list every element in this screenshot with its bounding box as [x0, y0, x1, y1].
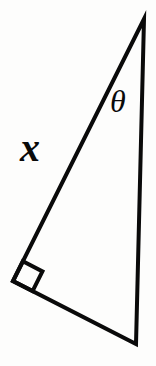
triangle-diagram-svg	[0, 0, 156, 366]
angle-label-theta: θ	[110, 85, 126, 117]
side-length-label-x: x	[20, 128, 40, 168]
right-triangle-outline	[13, 19, 144, 344]
figure-container: x θ	[0, 0, 156, 366]
right-angle-marker-icon	[13, 261, 42, 291]
